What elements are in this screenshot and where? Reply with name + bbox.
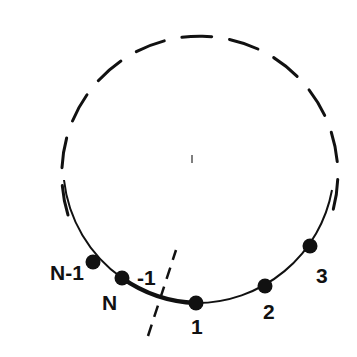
boundary-bond xyxy=(122,278,196,303)
site-labels: N-1 N 1 2 3 -1 xyxy=(50,261,328,338)
label-n-minus-1: N-1 xyxy=(50,261,84,284)
label-n: N xyxy=(102,291,117,314)
label-minus-1: -1 xyxy=(137,266,156,289)
label-3: 3 xyxy=(316,264,328,287)
site-n-dot xyxy=(115,271,130,286)
site-dots xyxy=(86,239,318,311)
label-2: 2 xyxy=(263,300,275,323)
site-n-minus-1-dot xyxy=(86,255,101,270)
dashed-arc xyxy=(62,36,338,220)
ring-lattice-diagram: N-1 N 1 2 3 -1 xyxy=(0,0,357,357)
site-2-dot xyxy=(258,279,273,294)
label-1: 1 xyxy=(191,315,203,338)
site-1-dot xyxy=(189,296,204,311)
site-3-dot xyxy=(303,239,318,254)
